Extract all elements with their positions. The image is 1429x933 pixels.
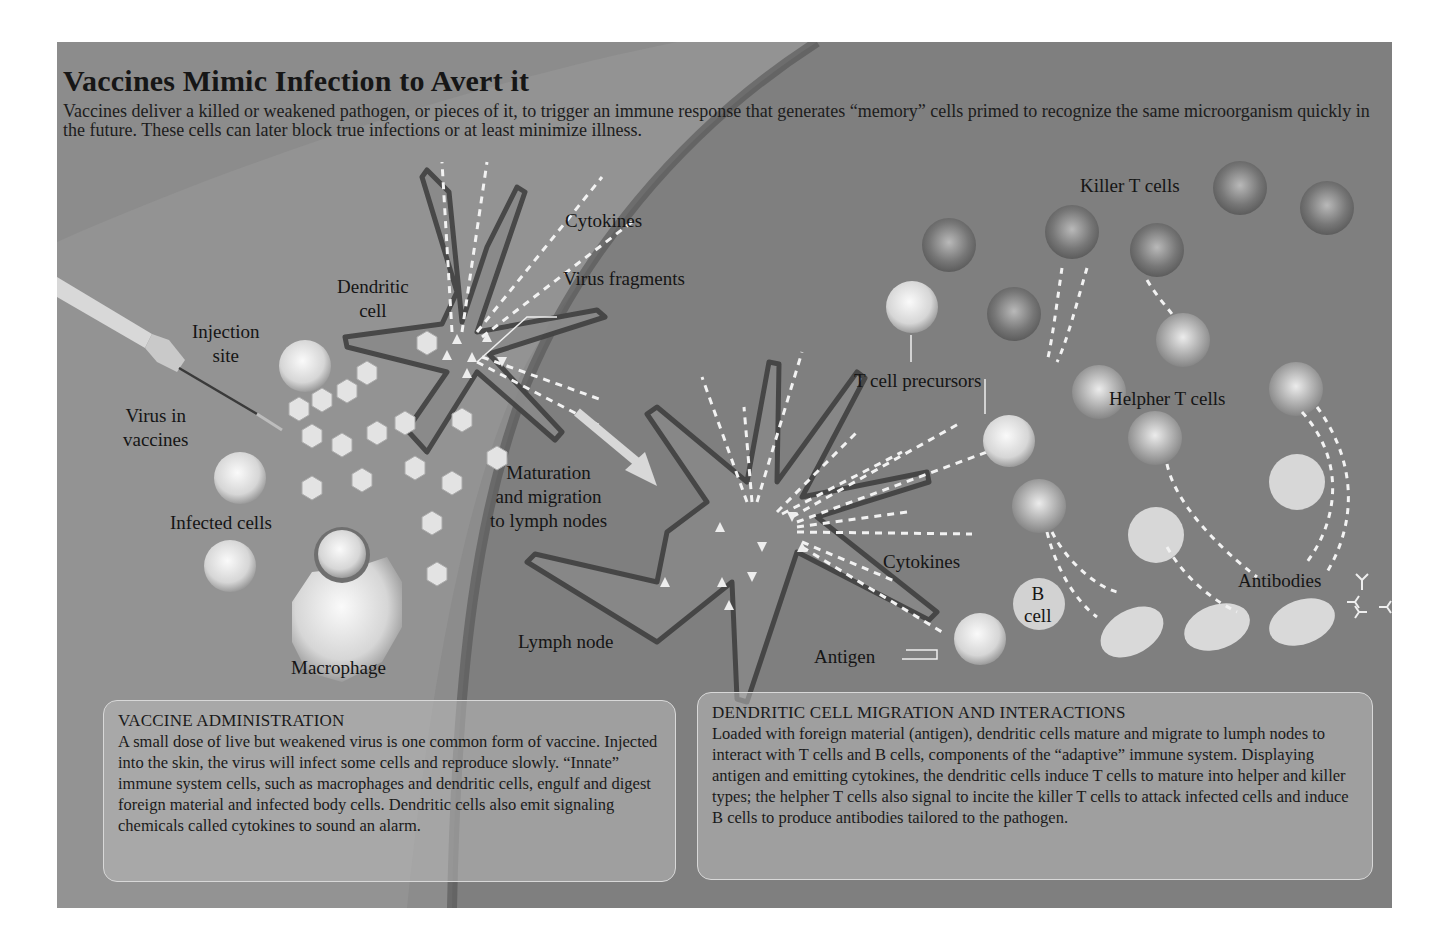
label-maturation-migration: Maturation and migration to lymph nodes: [490, 461, 607, 533]
vaccine-administration-box: VACCINE ADMINISTRATION A small dose of l…: [103, 700, 676, 882]
dendritic-migration-box: DENDRITIC CELL MIGRATION AND INTERACTION…: [697, 692, 1373, 880]
label-virus-in-vaccines: Virus in vaccines: [123, 404, 188, 452]
label-t-cell-precursors: T cell precursors: [854, 369, 981, 393]
label-b-cell: B cell: [1024, 583, 1051, 627]
label-killer-t-cells: Killer T cells: [1080, 174, 1180, 198]
infographic-panel: Vaccines Mimic Infection to Avert it Vac…: [57, 42, 1392, 908]
label-antigen: Antigen: [814, 645, 875, 669]
label-dendritic-cell: Dendritic cell: [337, 275, 409, 323]
figure-title: Vaccines Mimic Infection to Avert it: [63, 64, 529, 98]
label-lymph-node: Lymph node: [518, 630, 614, 654]
label-cytokines-bottom: Cytokines: [883, 550, 960, 574]
label-virus-fragments: Virus fragments: [563, 267, 685, 291]
label-injection-site: Injection site: [192, 320, 260, 368]
label-antibodies: Antibodies: [1238, 569, 1321, 593]
label-macrophage: Macrophage: [291, 656, 386, 680]
box-body: A small dose of live but weakened virus …: [118, 731, 661, 836]
label-infected-cells: Infected cells: [170, 511, 272, 535]
label-cytokines-top: Cytokines: [565, 209, 642, 233]
label-helpher-t-cells: Helpher T cells: [1109, 387, 1225, 411]
box-heading: VACCINE ADMINISTRATION: [118, 711, 661, 731]
box-heading: DENDRITIC CELL MIGRATION AND INTERACTION…: [712, 703, 1358, 723]
figure-intro: Vaccines deliver a killed or weakened pa…: [63, 102, 1383, 140]
box-body: Loaded with foreign material (antigen), …: [712, 723, 1358, 828]
